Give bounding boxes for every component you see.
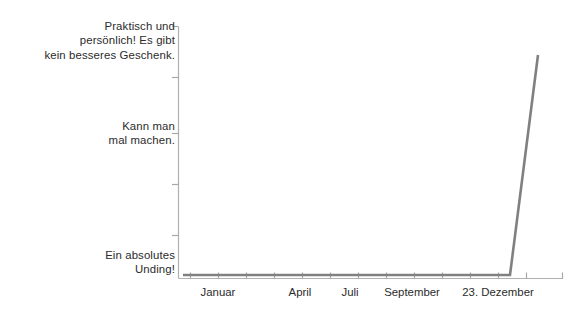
x-axis-label-dezember: 23. Dezember [462, 285, 534, 299]
y-axis-label-low: Ein absolutes Unding! [0, 248, 175, 277]
x-axis-label-juli: Juli [341, 285, 358, 299]
data-line-gutschein [183, 55, 538, 275]
y-axis-label-mid: Kann man mal machen. [0, 119, 175, 148]
x-axis-label-september: September [384, 285, 440, 299]
x-axis-label-januar: Januar [201, 285, 236, 299]
chart-figure: Praktisch und persönlich! Es gibt kein b… [0, 0, 582, 324]
y-axis-label-high: Praktisch und persönlich! Es gibt kein b… [0, 19, 175, 62]
x-axis-label-april: April [289, 285, 312, 299]
